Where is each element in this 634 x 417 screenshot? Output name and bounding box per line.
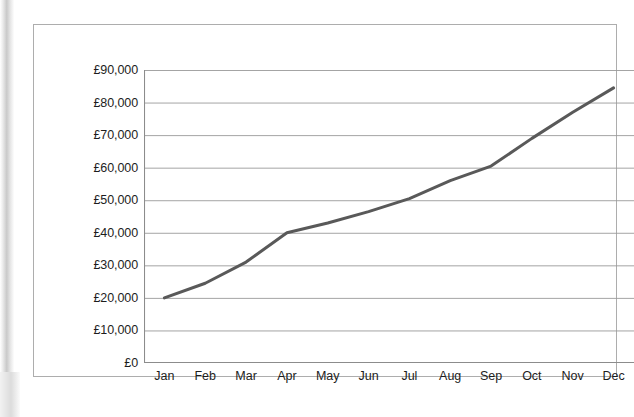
y-axis-tick-label-60000: £60,000 xyxy=(64,162,138,175)
plot-area xyxy=(144,70,634,363)
x-axis-tick-label-oct: Oct xyxy=(511,370,552,396)
x-axis-tick-label-jan: Jan xyxy=(144,370,185,396)
line-chart: £0£10,000£20,000£30,000£40,000£50,000£60… xyxy=(33,24,617,377)
x-axis-tick-label-apr: Apr xyxy=(266,370,307,396)
y-axis-tick-label-50000: £50,000 xyxy=(64,194,138,207)
y-axis-tick-label-0: £0 xyxy=(64,357,138,370)
data-line-series-0 xyxy=(164,88,613,298)
x-axis-tick-labels: JanFebMarAprMayJunJulAugSepOctNovDec xyxy=(144,370,634,396)
y-axis-tick-label-40000: £40,000 xyxy=(64,227,138,240)
x-axis-tick-label-mar: Mar xyxy=(226,370,267,396)
x-axis-tick-label-jun: Jun xyxy=(348,370,389,396)
y-axis-tick-label-10000: £10,000 xyxy=(64,324,138,337)
x-axis-tick-label-feb: Feb xyxy=(185,370,226,396)
y-axis-tick-label-30000: £30,000 xyxy=(64,259,138,272)
x-axis-tick-label-sep: Sep xyxy=(471,370,512,396)
y-axis-tick-label-70000: £70,000 xyxy=(64,129,138,142)
y-axis-tick-label-20000: £20,000 xyxy=(64,292,138,305)
x-axis-tick-label-aug: Aug xyxy=(430,370,471,396)
x-axis-tick-label-jul: Jul xyxy=(389,370,430,396)
y-axis-tick-label-80000: £80,000 xyxy=(64,97,138,110)
x-axis-tick-label-dec: Dec xyxy=(593,370,634,396)
page-scan-gutter xyxy=(0,0,14,417)
plot-canvas xyxy=(144,70,634,363)
page-scan-gutter-bottom xyxy=(0,372,20,417)
y-axis-tick-labels: £0£10,000£20,000£30,000£40,000£50,000£60… xyxy=(60,25,138,378)
x-axis-tick-label-nov: Nov xyxy=(552,370,593,396)
y-axis-tick-label-90000: £90,000 xyxy=(64,64,138,77)
x-axis-tick-label-may: May xyxy=(307,370,348,396)
